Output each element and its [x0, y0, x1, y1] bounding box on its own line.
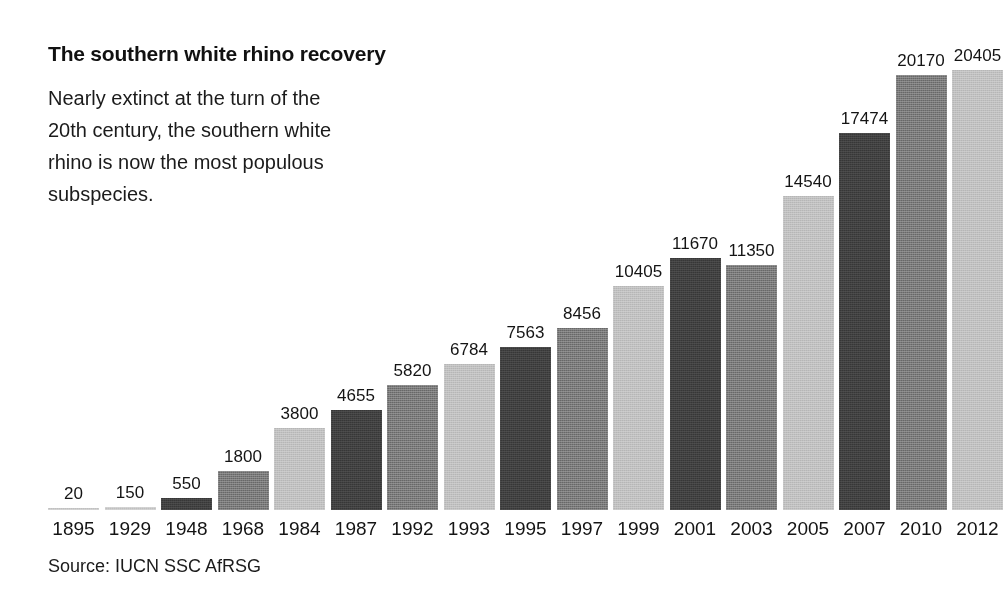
infographic-root: The southern white rhino recovery Nearly…	[0, 0, 1003, 606]
bar	[726, 265, 777, 510]
bar-year-label: 1997	[561, 518, 603, 540]
bar-value-label: 550	[172, 474, 200, 494]
source-note: Source: IUCN SSC AfRSG	[48, 556, 261, 577]
bar	[105, 507, 156, 510]
bar-group: 38001984	[274, 0, 325, 606]
bar	[48, 508, 99, 510]
bar	[274, 428, 325, 510]
bar-year-label: 1948	[165, 518, 207, 540]
bar-group: 75631995	[500, 0, 551, 606]
bar-value-label: 10405	[615, 262, 662, 282]
bar-year-label: 2012	[956, 518, 998, 540]
bar-group: 5501948	[161, 0, 212, 606]
bar-value-label: 3800	[281, 404, 319, 424]
bar-value-label: 5820	[394, 361, 432, 381]
bar-year-label: 1984	[278, 518, 320, 540]
bar-group: 58201992	[387, 0, 438, 606]
bar-value-label: 20	[64, 484, 83, 504]
bar-group: 201895	[48, 0, 99, 606]
bar-year-label: 2001	[674, 518, 716, 540]
bar-year-label: 2003	[730, 518, 772, 540]
bar	[670, 258, 721, 510]
bar-value-label: 4655	[337, 386, 375, 406]
bar-value-label: 14540	[784, 172, 831, 192]
bar	[161, 498, 212, 510]
bar-value-label: 17474	[841, 109, 888, 129]
bar	[783, 196, 834, 510]
bar-group: 113502003	[726, 0, 777, 606]
bar	[952, 70, 1003, 510]
bar-group: 204052012	[952, 0, 1003, 606]
bar-year-label: 2005	[787, 518, 829, 540]
bar	[896, 75, 947, 510]
bar-group: 1501929	[105, 0, 156, 606]
bar-group: 174742007	[839, 0, 890, 606]
bar	[387, 385, 438, 510]
bar-group: 18001968	[218, 0, 269, 606]
bar-year-label: 1929	[109, 518, 151, 540]
bar-year-label: 1993	[448, 518, 490, 540]
bar-chart: 2018951501929550194818001968380019844655…	[0, 0, 1003, 606]
bar-year-label: 1992	[391, 518, 433, 540]
bar-value-label: 150	[116, 483, 144, 503]
bar-value-label: 8456	[563, 304, 601, 324]
bar-group: 46551987	[331, 0, 382, 606]
bar-year-label: 2007	[843, 518, 885, 540]
bar	[839, 133, 890, 510]
bar	[218, 471, 269, 510]
bar-year-label: 1968	[222, 518, 264, 540]
bar-value-label: 11350	[728, 241, 774, 261]
bar-year-label: 1999	[617, 518, 659, 540]
bar-year-label: 2010	[900, 518, 942, 540]
bar-year-label: 1987	[335, 518, 377, 540]
bar-value-label: 6784	[450, 340, 488, 360]
bar	[444, 364, 495, 510]
bar-value-label: 11670	[672, 234, 718, 254]
bar	[500, 347, 551, 510]
bar-group: 145402005	[783, 0, 834, 606]
bar-year-label: 1995	[504, 518, 546, 540]
bar	[557, 328, 608, 510]
bar	[331, 410, 382, 510]
bar-value-label: 7563	[507, 323, 545, 343]
bar-year-label: 1895	[52, 518, 94, 540]
bar-value-label: 1800	[224, 447, 262, 467]
bar-group: 67841993	[444, 0, 495, 606]
bar-value-label: 20405	[954, 46, 1001, 66]
bar-value-label: 20170	[897, 51, 944, 71]
bar-group: 116702001	[670, 0, 721, 606]
bar-group: 201702010	[896, 0, 947, 606]
bar	[613, 286, 664, 510]
bar-group: 104051999	[613, 0, 664, 606]
bar-group: 84561997	[557, 0, 608, 606]
